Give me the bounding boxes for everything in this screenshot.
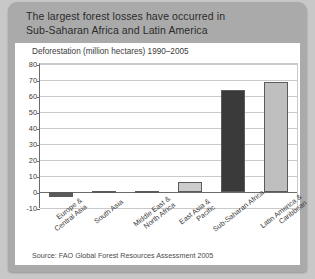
y-tickmark--10 [37,209,40,210]
bar-series: Europe &Central AsiaSouth AsiaMiddle Eas… [40,64,297,208]
chart-title: Deforestation (million hectares) 1990–20… [32,47,189,56]
y-tick-label-50: 50 [29,108,37,117]
x-axis-label-5: Latin America &Caribbean [259,193,307,237]
x-axis-label-1: South Asia [93,198,125,226]
bar-slot: Europe &Central Asia [40,64,83,208]
figure-card: The largest forest losses have occurred … [8,2,307,272]
y-tick-label-30: 30 [29,140,37,149]
x-axis-label-line: South Asia [93,198,125,226]
y-tick-label-10: 10 [29,172,37,181]
bar-slot: South Asia [83,64,126,208]
y-tick-label-0: 0 [33,188,37,197]
figure-header: The largest forest losses have occurred … [8,2,307,43]
y-tick-label-20: 20 [29,156,37,165]
plot-area: 80706050403020100-10 Europe &Central Asi… [39,63,298,208]
chart-panel: Deforestation (million hectares) 1990–20… [15,43,300,265]
source-note: Source: FAO Global Forest Resources Asse… [32,251,213,260]
y-tick-label-70: 70 [29,76,37,85]
bar-0[interactable] [49,192,73,197]
bar-slot: Latin America &Caribbean [254,64,297,208]
bar-1[interactable] [92,191,116,193]
bar-4[interactable] [221,90,245,192]
header-line-1: The largest forest losses have occurred … [26,10,307,24]
bar-3[interactable] [178,182,202,192]
bar-slot: Middle East &North Africa [126,64,169,208]
bar-2[interactable] [135,191,159,193]
bar-slot: East Asia &Pacific [168,64,211,208]
bar-5[interactable] [264,82,288,192]
y-tick-label--10: -10 [26,204,37,213]
y-tick-label-80: 80 [29,60,37,69]
header-line-2: Sub-Saharan Africa and Latin America [26,24,307,38]
y-tick-label-40: 40 [29,124,37,133]
y-tick-label-60: 60 [29,92,37,101]
bar-slot: Sub-Saharan Africa [211,64,254,208]
